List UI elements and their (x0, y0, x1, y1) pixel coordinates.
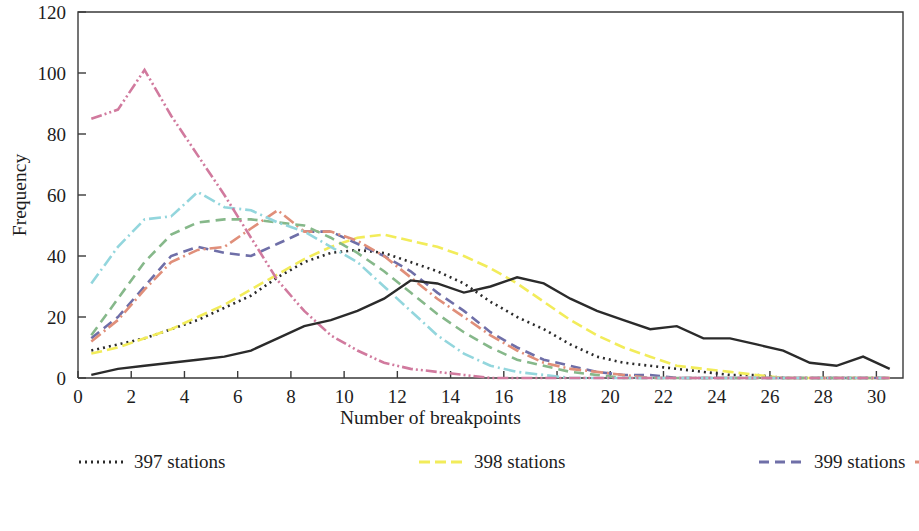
x-tick-label: 30 (867, 386, 886, 407)
x-tick-label: 10 (335, 386, 354, 407)
plot-border (78, 12, 903, 378)
y-tick-label: 100 (38, 63, 67, 84)
y-tick-label: 0 (57, 368, 67, 389)
legend-label: 399 stations (814, 451, 905, 473)
legend-label: 398 stations (474, 451, 565, 473)
legend-item[interactable]: 397 stations (78, 448, 418, 475)
legend-line-swatch (758, 455, 804, 469)
series-line (91, 277, 889, 375)
legend-item[interactable]: 398 stations (418, 448, 758, 475)
x-tick-label: 16 (494, 386, 513, 407)
x-tick-label: 2 (126, 386, 136, 407)
x-tick-label: 24 (707, 386, 727, 407)
series-line (91, 210, 889, 378)
x-tick-label: 0 (73, 386, 83, 407)
x-axis-title: Number of breakpoints (340, 407, 521, 428)
x-tick-label: 4 (180, 386, 190, 407)
legend-line-swatch (78, 455, 124, 469)
y-axis-ticks: 020406080100120 (38, 2, 87, 389)
legend-item[interactable]: 400 stations (914, 448, 919, 475)
y-tick-label: 60 (47, 185, 66, 206)
y-tick-label: 40 (47, 246, 66, 267)
legend-line-swatch (418, 455, 464, 469)
data-series-group (91, 70, 889, 378)
series-line (91, 219, 889, 378)
legend-line-swatch (914, 455, 919, 469)
x-tick-label: 14 (441, 386, 461, 407)
y-tick-label: 20 (47, 307, 66, 328)
legend-label: 397 stations (134, 451, 225, 473)
y-tick-label: 80 (47, 124, 66, 145)
x-tick-label: 12 (388, 386, 407, 407)
y-tick-label: 120 (38, 2, 67, 23)
plot-frame (78, 12, 903, 378)
x-tick-label: 8 (286, 386, 296, 407)
x-tick-label: 28 (814, 386, 833, 407)
chart-legend: 397 stations398 stations399 stations400 … (78, 448, 914, 528)
legend-item[interactable]: 399 stations (758, 448, 914, 475)
x-tick-label: 26 (760, 386, 779, 407)
y-axis-title: Frequency (9, 154, 30, 237)
series-line (91, 192, 889, 378)
x-tick-label: 6 (233, 386, 243, 407)
x-tick-label: 20 (601, 386, 620, 407)
series-line (91, 235, 889, 378)
chart-figure: 024681012141618202224262830 020406080100… (0, 0, 919, 531)
series-line (91, 232, 889, 378)
frequency-breakpoints-line-chart: 024681012141618202224262830 020406080100… (0, 0, 919, 440)
x-tick-label: 18 (548, 386, 567, 407)
x-tick-label: 22 (654, 386, 673, 407)
